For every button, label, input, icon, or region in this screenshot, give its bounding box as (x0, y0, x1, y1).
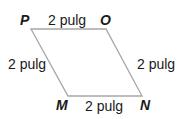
side-label-right: 2 pulg (137, 57, 175, 71)
rhombus-shape (31, 29, 142, 96)
side-label-top: 2 pulg (48, 13, 86, 27)
vertex-label-o: O (100, 13, 111, 27)
vertex-label-p: P (20, 13, 29, 27)
side-label-left: 2 pulg (8, 57, 46, 71)
vertex-label-n: N (140, 98, 150, 112)
side-label-bottom: 2 pulg (85, 99, 123, 113)
vertex-label-m: M (56, 98, 68, 112)
